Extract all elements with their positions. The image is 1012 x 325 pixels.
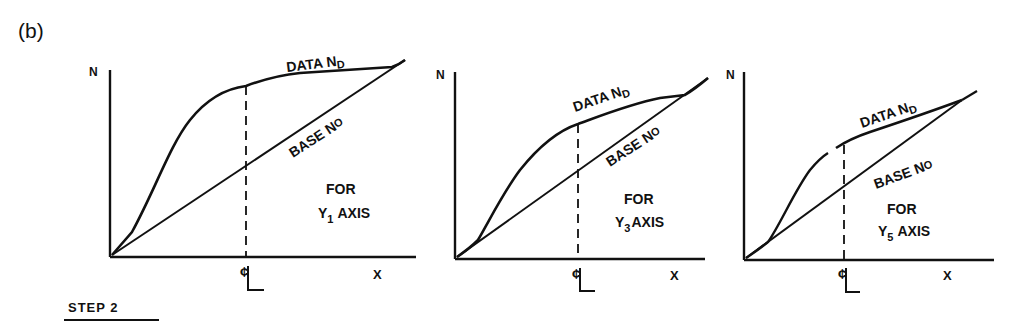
x-axis-label: X	[373, 267, 382, 282]
centerline-symbol: ¢	[572, 265, 595, 291]
n-axis-label: N	[89, 65, 98, 79]
svg-text:DATA ND: DATA ND	[858, 97, 919, 133]
base-no-label: BASE NO	[872, 156, 936, 192]
base-line	[112, 60, 405, 255]
centerline-symbol: ¢	[838, 265, 860, 292]
data-nd-label: DATA ND	[571, 81, 632, 117]
svg-text:BASE NO: BASE NO	[872, 156, 936, 192]
axis-label-y1: Y1AXIS	[318, 205, 370, 225]
panel-y5	[744, 72, 994, 260]
n-axis-label: N	[436, 68, 445, 82]
n-axis-label: N	[726, 68, 735, 82]
figure-label: (b)	[18, 19, 44, 42]
for-label: FOR	[326, 181, 356, 197]
data-nd-label: DATA ND	[858, 97, 919, 133]
svg-text:DATA ND: DATA ND	[571, 81, 632, 117]
x-axis-label: X	[943, 268, 952, 283]
axis-label-y5: Y5AXIS	[878, 223, 930, 243]
centerline-symbol: ¢	[240, 263, 264, 290]
panel-y1	[110, 60, 416, 257]
for-label: FOR	[887, 201, 917, 217]
base-no-label: BASE NO	[286, 113, 347, 160]
svg-text:BASE NO: BASE NO	[286, 113, 347, 160]
step-2-diagram: (b) N X ¢ DATA ND BASE NO FOR Y1AXIS N X	[0, 0, 1012, 325]
x-axis-label: X	[670, 268, 679, 283]
axis-label-y3: Y3AXIS	[615, 214, 664, 234]
for-label: FOR	[624, 191, 654, 207]
step-label: STEP 2	[68, 300, 119, 315]
data-curve-lower	[746, 153, 828, 258]
